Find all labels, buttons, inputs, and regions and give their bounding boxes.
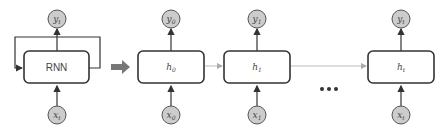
unrolled-cell-1: h1 y1 x1 <box>224 10 290 124</box>
rnn-diagram: RNN yt xt h0 y0 x0 h1 y1 x1 <box>0 0 448 132</box>
rnn-label: RNN <box>46 62 68 73</box>
unrolled-cell-0: h0 y0 x0 <box>138 10 204 124</box>
rolled-rnn: RNN yt xt <box>15 10 100 124</box>
unroll-arrow-icon <box>111 60 130 74</box>
unrolled-cell-t: ht yt xt <box>368 10 434 124</box>
ellipsis-icon <box>320 87 338 91</box>
